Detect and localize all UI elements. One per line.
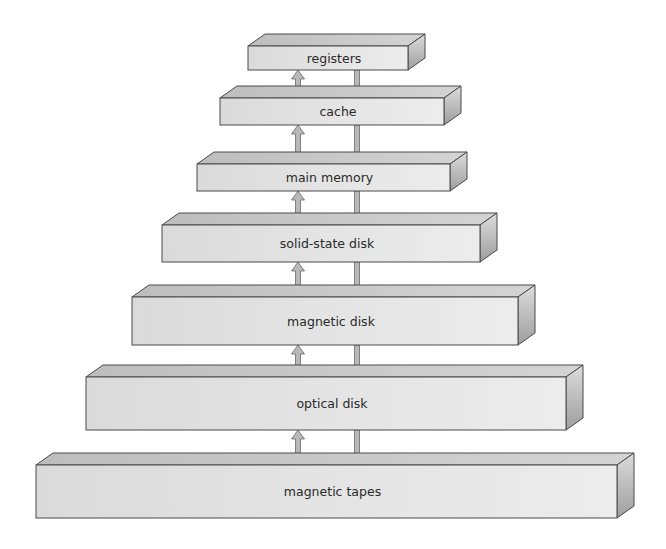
level-label: magnetic tapes <box>284 484 381 499</box>
box-top-face <box>162 213 497 225</box>
level-cache: cache <box>220 86 461 125</box>
level-label: magnetic disk <box>287 314 376 329</box>
box-top-face <box>86 365 583 377</box>
box-top-face <box>132 285 535 297</box>
box-top-face <box>36 453 634 465</box>
box-side-face <box>566 365 583 430</box>
storage-hierarchy-diagram: registerscachemain memorysolid-state dis… <box>0 0 666 549</box>
level-label: registers <box>307 51 362 66</box>
level-label: optical disk <box>296 396 368 411</box>
level-label: main memory <box>286 170 374 185</box>
box-side-face <box>617 453 634 518</box>
level-optical-disk: optical disk <box>86 365 583 430</box>
box-top-face <box>220 86 461 98</box>
level-main-memory: main memory <box>197 152 467 191</box>
boxes-layer: registerscachemain memorysolid-state dis… <box>36 34 634 518</box>
level-label: cache <box>319 104 356 119</box>
level-solid-state-disk: solid-state disk <box>162 213 497 262</box>
level-registers: registers <box>248 34 425 70</box>
level-magnetic-disk: magnetic disk <box>132 285 535 345</box>
box-top-face <box>197 152 467 164</box>
box-top-face <box>248 34 425 46</box>
level-label: solid-state disk <box>280 236 375 251</box>
level-magnetic-tapes: magnetic tapes <box>36 453 634 518</box>
